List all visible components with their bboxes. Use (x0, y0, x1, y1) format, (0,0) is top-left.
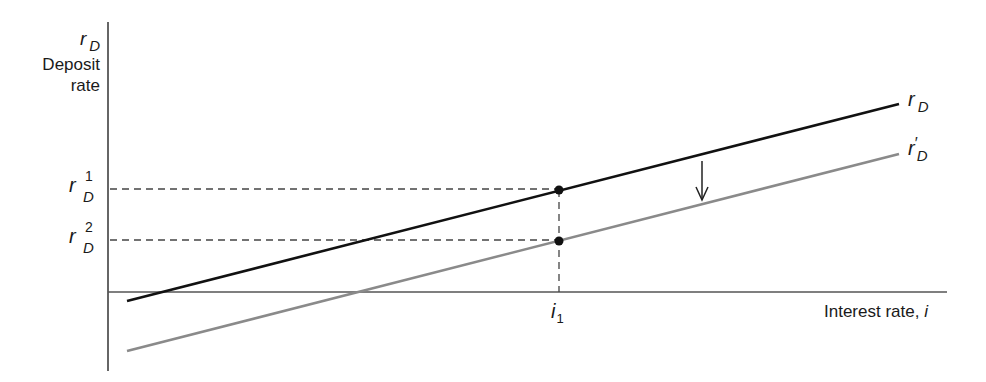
curve-label-rD-prime: r′D (908, 137, 928, 160)
curve-rD-sub: D (918, 98, 929, 115)
y-axis-label-line1: Deposit (42, 55, 100, 75)
curve-rD-base: r (908, 88, 915, 110)
shift-arrow-icon (696, 161, 708, 200)
y-axis-symbol-base: r (80, 28, 86, 49)
tick-label-r1: r 1 D (69, 174, 103, 204)
point-r1 (555, 186, 564, 195)
tick-r2-sup: 2 (85, 219, 93, 235)
tick-r1-base: r (69, 174, 76, 196)
tick-r2-base: r (69, 225, 76, 247)
y-axis-symbol-sub: D (89, 37, 100, 54)
curve-label-rD: rD (908, 88, 929, 111)
point-r2 (555, 237, 564, 246)
diagram-canvas (0, 0, 986, 382)
x-axis-label: Interest rate, i (824, 302, 928, 322)
tick-label-r2: r 2 D (69, 225, 103, 255)
tick-i1-base: i (551, 300, 555, 322)
tick-i1-sub: 1 (556, 311, 563, 326)
tick-r2-sub: D (83, 239, 94, 256)
curve-rDp-base: r (908, 137, 915, 159)
curve-rD-prime (127, 154, 899, 351)
x-axis-label-text: Interest rate, (824, 302, 924, 321)
tick-label-i1: i1 (551, 300, 564, 323)
y-axis-symbol: rD (80, 28, 100, 50)
x-axis-symbol: i (924, 302, 928, 321)
tick-r1-sup: 1 (85, 168, 93, 184)
y-axis-label-line2: rate (71, 76, 100, 96)
curve-rDp-sub: D (917, 147, 928, 164)
tick-r1-sub: D (83, 188, 94, 205)
curve-rD (127, 104, 899, 301)
